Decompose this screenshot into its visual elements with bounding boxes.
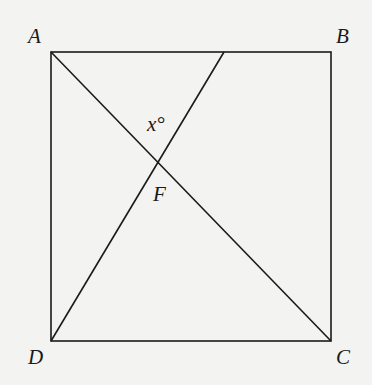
intersection-label-f: F bbox=[153, 184, 166, 205]
diagram-lines bbox=[0, 0, 372, 385]
geometry-diagram: A B C D x° F bbox=[0, 0, 372, 385]
segment-from-D bbox=[51, 52, 224, 341]
vertex-label-d: D bbox=[28, 347, 43, 368]
vertex-label-c: C bbox=[336, 347, 350, 368]
diagonal-AC bbox=[51, 52, 331, 341]
vertex-label-b: B bbox=[336, 26, 349, 47]
vertex-label-a: A bbox=[28, 26, 41, 47]
angle-label-x: x° bbox=[147, 114, 165, 135]
